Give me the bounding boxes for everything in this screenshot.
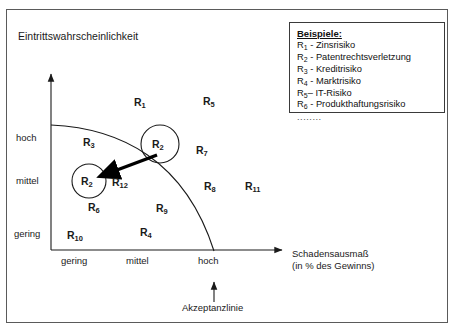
legend-r1-sub: 1 xyxy=(304,44,308,51)
risk-label-r11: R11 xyxy=(245,180,261,193)
x-axis-title-line1: Schadensausmaß xyxy=(292,249,369,260)
risk-label-r5-symbol: R xyxy=(203,95,211,107)
legend-r3-sub: 3 xyxy=(304,68,308,75)
legend-title: Beispiele: xyxy=(297,28,444,39)
risk-label-r2-after-symbol: R xyxy=(81,175,89,187)
x-axis-tick-gering: gering xyxy=(61,256,87,267)
risk-label-r2-after: R2 xyxy=(81,175,93,188)
risk-label-r1-symbol: R xyxy=(134,96,142,108)
legend-r6-text: Produkthaftungsrisiko xyxy=(316,99,405,109)
legend-row-r6: R6 - Produkthaftungsrisiko xyxy=(297,99,444,111)
legend-row-r1: R1 - Zinsrisiko xyxy=(297,40,444,52)
legend-r2-dash: - xyxy=(310,52,313,62)
risk-label-r7-sub: 7 xyxy=(204,149,208,158)
legend-r4-text: Marktrisiko xyxy=(316,76,361,86)
legend-r6-dash: - xyxy=(310,99,313,109)
risk-label-r9-sub: 9 xyxy=(164,207,168,216)
risk-label-r11-symbol: R xyxy=(245,180,253,192)
risk-label-r2-before-symbol: R xyxy=(152,138,160,150)
risk-label-r10-sub: 10 xyxy=(75,234,83,243)
legend-r6-sub: 6 xyxy=(304,103,308,110)
risk-label-r4-sub: 4 xyxy=(148,231,152,240)
legend-r5-text: IT-Risiko xyxy=(315,88,351,98)
risk-label-r9-symbol: R xyxy=(156,202,164,214)
risk-label-r6-sub: 6 xyxy=(96,206,100,215)
risk-label-r10-symbol: R xyxy=(67,229,75,241)
risk-label-r11-sub: 11 xyxy=(253,185,261,194)
risk-label-r5: R5 xyxy=(203,95,215,108)
legend-row-r4: R4 - Marktrisiko xyxy=(297,76,444,88)
legend-r1-text: Zinsrisiko xyxy=(316,40,355,50)
legend-r6-symbol: R xyxy=(297,99,304,109)
x-axis-title-line2: (in % des Gewinns) xyxy=(292,261,374,272)
y-axis-title: Eintrittswahrscheinlichkeit xyxy=(18,30,138,42)
risk-label-r2-before-sub: 2 xyxy=(160,143,164,152)
legend-r1-dash: - xyxy=(310,40,313,50)
legend-r4-symbol: R xyxy=(297,76,304,86)
risk-label-r12-sub: 12 xyxy=(120,181,128,190)
risk-label-r4-symbol: R xyxy=(140,226,148,238)
risk-label-r10: R10 xyxy=(67,229,83,242)
legend-r3-symbol: R xyxy=(297,64,304,74)
risk-label-r12-symbol: R xyxy=(112,176,120,188)
acceptance-line-label: Akzeptanzlinie xyxy=(182,303,243,314)
y-axis-tick-hoch: hoch xyxy=(16,133,37,144)
x-axis-tick-mittel: mittel xyxy=(126,256,149,267)
legend-r5-symbol: R xyxy=(297,88,304,98)
risk-label-r2-after-sub: 2 xyxy=(89,180,93,189)
legend-row-r2: R2 - Patentrechtsverletzung xyxy=(297,52,444,64)
risk-label-r1-sub: 1 xyxy=(142,101,146,110)
legend-r2-symbol: R xyxy=(297,52,304,62)
risk-label-r6: R6 xyxy=(88,201,100,214)
risk-label-r3: R3 xyxy=(83,136,95,149)
legend-box: Beispiele: R1 - Zinsrisiko R2 - Patentre… xyxy=(289,22,445,113)
risk-matrix-diagram: Eintrittswahrscheinlichkeit hoch mittel … xyxy=(0,0,456,334)
legend-r2-sub: 2 xyxy=(304,56,308,63)
y-axis-tick-mittel: mittel xyxy=(16,176,39,187)
legend-r2-text: Patentrechtsverletzung xyxy=(316,52,411,62)
risk-migration-arrow xyxy=(101,155,157,176)
risk-label-r5-sub: 5 xyxy=(211,100,215,109)
risk-label-r1: R1 xyxy=(134,96,146,109)
risk-label-r9: R9 xyxy=(156,202,168,215)
y-axis-tick-gering: gering xyxy=(14,229,40,240)
risk-label-r12: R12 xyxy=(112,176,128,189)
legend-r5-dash: – xyxy=(308,88,313,98)
risk-label-r4: R4 xyxy=(140,226,152,239)
risk-label-r6-symbol: R xyxy=(88,201,96,213)
x-axis-tick-hoch: hoch xyxy=(198,256,219,267)
legend-ellipsis: ........ xyxy=(297,112,444,122)
risk-label-r3-sub: 3 xyxy=(91,141,95,150)
legend-r3-text: Kreditrisiko xyxy=(316,64,362,74)
legend-r1-symbol: R xyxy=(297,40,304,50)
legend-r3-dash: - xyxy=(310,64,313,74)
legend-r4-sub: 4 xyxy=(304,80,308,87)
legend-row-r5: R5– IT-Risiko xyxy=(297,88,444,100)
risk-label-r8-sub: 8 xyxy=(212,185,216,194)
legend-r4-dash: - xyxy=(310,76,313,86)
legend-row-r3: R3 - Kreditrisiko xyxy=(297,64,444,76)
risk-label-r8-symbol: R xyxy=(204,180,212,192)
risk-label-r3-symbol: R xyxy=(83,136,91,148)
legend-r5-sub: 5 xyxy=(304,92,308,99)
risk-label-r7-symbol: R xyxy=(196,144,204,156)
risk-label-r2-before: R2 xyxy=(152,138,164,151)
risk-label-r7: R7 xyxy=(196,144,208,157)
risk-label-r8: R8 xyxy=(204,180,216,193)
